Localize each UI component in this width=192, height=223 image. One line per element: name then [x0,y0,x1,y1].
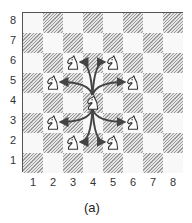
center-knight-icon [84,93,102,111]
target-knight-icon [124,113,142,131]
figure-caption: (a) [84,200,100,215]
target-knight-icon [44,113,62,131]
target-knight-icon [104,53,122,71]
target-knight-icon [64,133,82,151]
move-arrows [0,0,192,223]
target-knight-icon [44,73,62,91]
target-knight-icon [124,73,142,91]
target-knight-icon [64,53,82,71]
target-knight-icon [104,133,122,151]
